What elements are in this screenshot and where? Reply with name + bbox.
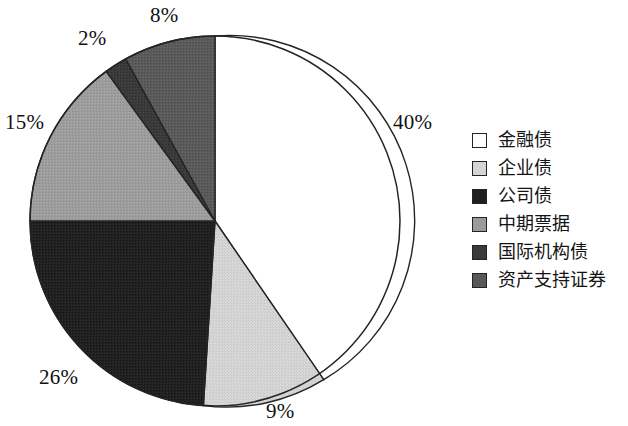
legend-label-zhongqipiaoju: 中期票据	[498, 215, 570, 233]
legend-label-qiyezhai: 企业债	[498, 159, 552, 177]
pie-label-8: 8%	[150, 3, 179, 28]
legend-swatch-gongsizhai	[472, 189, 487, 204]
legend-item-guojijigouzhai: 国际机构债	[472, 238, 622, 266]
legend: 金融债 企业债 公司债 中期票据 国际机构债 资产支持证券	[472, 126, 622, 294]
legend-item-gongsizhai: 公司债	[472, 182, 622, 210]
legend-swatch-zhongqipiaoju	[472, 217, 487, 232]
legend-swatch-guojijigouzhai	[472, 245, 487, 260]
legend-swatch-jinrongzhai	[472, 133, 487, 148]
legend-item-zichanzhichizhengquan: 资产支持证券	[472, 266, 622, 294]
pie-label-26: 26%	[39, 365, 78, 390]
legend-label-jinrongzhai: 金融债	[498, 131, 552, 149]
pie-label-40: 40%	[393, 110, 432, 135]
pie-label-15: 15%	[5, 110, 44, 135]
legend-item-jinrongzhai: 金融债	[472, 126, 622, 154]
legend-label-gongsizhai: 公司债	[498, 187, 552, 205]
pie-chart-figure: 40% 9% 26% 15% 2% 8% 金融债 企业债 公司债 中期票据 国际…	[0, 0, 628, 426]
legend-swatch-qiyezhai	[472, 161, 487, 176]
legend-item-qiyezhai: 企业债	[472, 154, 622, 182]
legend-item-zhongqipiaoju: 中期票据	[472, 210, 622, 238]
legend-swatch-zichanzhichizhengquan	[472, 273, 487, 288]
legend-label-guojijigouzhai: 国际机构债	[498, 243, 588, 261]
legend-label-zichanzhichizhengquan: 资产支持证券	[498, 271, 606, 289]
pie-label-2: 2%	[78, 26, 107, 51]
pie-label-9: 9%	[266, 399, 295, 424]
